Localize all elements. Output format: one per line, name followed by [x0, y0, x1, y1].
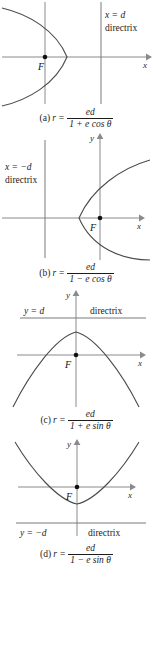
- caption-c-equals: =: [60, 416, 65, 426]
- caption-b-index: (b): [39, 269, 50, 279]
- caption-a-fraction: ed 1 + e cos θ: [67, 108, 113, 130]
- caption-b-denominator: 1 − e cos θ: [67, 274, 113, 284]
- directrix-word-label: directrix: [90, 306, 122, 316]
- caption-b-numerator: ed: [83, 263, 98, 273]
- caption-d-index: (d): [40, 550, 51, 560]
- caption-c: (c) r = ed 1 + e sin θ: [0, 410, 153, 432]
- caption-d-fraction: ed 1 − e sin θ: [68, 544, 113, 566]
- directrix-word-label: directrix: [105, 23, 137, 33]
- directrix-equation-label: y = d: [23, 306, 44, 316]
- panel-c: y x F y = d directrix (c) r = ed: [0, 285, 153, 432]
- directrix-equation-label: y = −d: [19, 528, 47, 538]
- panel-b: x y F x = −d directrix (b) r = ed: [0, 130, 153, 285]
- caption-b-equals: =: [59, 269, 64, 279]
- caption-a-numerator: ed: [83, 108, 98, 118]
- y-axis-label: y: [66, 439, 71, 449]
- caption-b: (b) r = ed 1 − e cos θ: [0, 263, 153, 285]
- panel-d: y x F y = −d directrix (d) r = ed: [0, 432, 153, 566]
- caption-c-numerator: ed: [83, 410, 98, 420]
- focus-label: F: [89, 222, 97, 233]
- panel-c-diagram: y x F y = d directrix: [0, 285, 153, 410]
- caption-a-variable: r: [52, 114, 56, 124]
- x-axis-label: x: [136, 221, 141, 231]
- caption-d-equals: =: [60, 550, 65, 560]
- caption-c-index: (c): [40, 416, 51, 426]
- caption-c-variable: r: [53, 416, 57, 426]
- conic-curve: [79, 160, 150, 260]
- focus-point: [43, 55, 48, 60]
- focus-label: F: [37, 61, 45, 72]
- caption-b-variable: r: [52, 269, 56, 279]
- caption-d: (d) r = ed 1 − e sin θ: [0, 544, 153, 566]
- directrix-equation-label: x = d: [104, 10, 125, 20]
- y-axis-arrow-icon: [73, 290, 80, 296]
- caption-a-denominator: 1 + e cos θ: [67, 119, 113, 129]
- panel-b-diagram: x y F x = −d directrix: [0, 130, 153, 263]
- x-axis-label: x: [142, 60, 147, 70]
- caption-d-denominator: 1 − e sin θ: [68, 555, 113, 565]
- y-axis-label: y: [89, 133, 94, 143]
- focus-point: [75, 485, 80, 490]
- directrix-equation-label: x = −d: [4, 162, 32, 172]
- y-axis-arrow-icon: [74, 439, 81, 445]
- caption-d-variable: r: [53, 550, 57, 560]
- caption-c-denominator: 1 + e sin θ: [68, 421, 113, 431]
- panel-a: x F x = d directrix (a) r = ed 1 + e c: [0, 0, 153, 130]
- y-axis-label: y: [65, 290, 70, 300]
- conic-directrix-figure: x F x = d directrix (a) r = ed 1 + e c: [0, 0, 153, 566]
- caption-a-equals: =: [59, 114, 64, 124]
- focus-point: [98, 216, 103, 221]
- focus-point: [74, 353, 79, 358]
- caption-b-fraction: ed 1 − e cos θ: [67, 263, 113, 285]
- x-axis-label: x: [137, 358, 142, 368]
- focus-label: F: [65, 491, 73, 502]
- panel-a-diagram: x F x = d directrix: [0, 0, 153, 108]
- y-axis-arrow-icon: [97, 133, 104, 139]
- focus-label: F: [64, 359, 72, 370]
- caption-d-numerator: ed: [83, 544, 98, 554]
- caption-a: (a) r = ed 1 + e cos θ: [0, 108, 153, 130]
- panel-d-diagram: y x F y = −d directrix: [0, 432, 153, 544]
- x-axis-label: x: [127, 490, 132, 500]
- directrix-word-label: directrix: [5, 175, 37, 185]
- caption-a-index: (a): [40, 114, 51, 124]
- directrix-word-label: directrix: [88, 528, 120, 538]
- caption-c-fraction: ed 1 + e sin θ: [68, 410, 113, 432]
